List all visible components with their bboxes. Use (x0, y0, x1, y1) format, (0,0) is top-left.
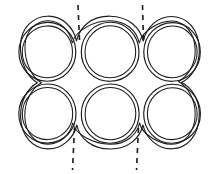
circle-bundle-diagram (0, 0, 217, 174)
circle-bottom-center-inner (85, 87, 136, 139)
circle-bottom-right-inner (147, 88, 197, 140)
inner-envelope-path (25, 21, 195, 145)
inner-envelope-group (25, 21, 195, 145)
circle-bottom-left-inner (22, 87, 72, 139)
symmetry-line-bottom-right (137, 128, 139, 170)
circle-top-left-inner (22, 26, 72, 78)
circle-top-center-inner (85, 26, 136, 78)
circle-top-right-inner (147, 26, 197, 78)
outer-envelope-path (20, 16, 199, 149)
circle-top-right-outer (144, 23, 201, 82)
circle-top-center-outer (81, 22, 139, 81)
figure-canvas (0, 0, 217, 174)
pore-walls-group (19, 22, 201, 143)
outer-envelope-group (20, 16, 199, 149)
circle-bottom-left-outer (19, 84, 76, 143)
circle-bottom-center-outer (81, 84, 139, 143)
circle-bottom-right-outer (144, 84, 201, 143)
circle-top-left-outer (19, 22, 76, 81)
